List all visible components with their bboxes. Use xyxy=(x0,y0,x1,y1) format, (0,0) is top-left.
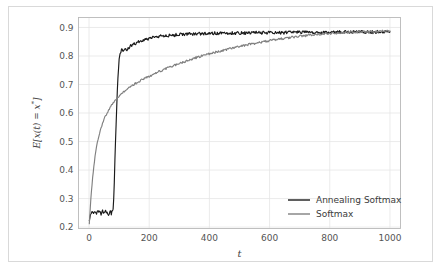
x-tick-label: 200 xyxy=(141,233,158,243)
x-tick-label: 800 xyxy=(321,233,338,243)
y-tick-label: 0.2 xyxy=(59,222,73,232)
y-tick-labels: 0.20.30.40.50.60.70.80.9 xyxy=(59,23,74,233)
x-tick-label: 400 xyxy=(201,233,218,243)
y-tick-label: 0.9 xyxy=(59,23,74,33)
y-axis-title: E[x(t) = x*] xyxy=(30,97,42,149)
x-tick-labels: 02004006008001000 xyxy=(86,233,402,243)
x-tick-label: 600 xyxy=(261,233,278,243)
y-tick-label: 0.7 xyxy=(59,80,73,90)
series-line-annealing-softmax xyxy=(89,30,390,220)
x-axis-title: t xyxy=(237,248,242,259)
figure-canvas: 0.20.30.40.50.60.70.80.9 020040060080010… xyxy=(0,0,441,269)
legend-label: Annealing Softmax xyxy=(316,195,402,205)
chart-plot: 0.20.30.40.50.60.70.80.9 020040060080010… xyxy=(0,0,441,269)
x-tick-label: 0 xyxy=(86,233,92,243)
legend-label: Softmax xyxy=(316,209,354,219)
y-tick-label: 0.8 xyxy=(59,51,74,61)
y-tick-label: 0.4 xyxy=(59,165,74,175)
y-tick-label: 0.3 xyxy=(59,194,73,204)
x-tick-label: 1000 xyxy=(379,233,402,243)
y-tick-label: 0.5 xyxy=(59,137,73,147)
y-tick-label: 0.6 xyxy=(59,108,74,118)
